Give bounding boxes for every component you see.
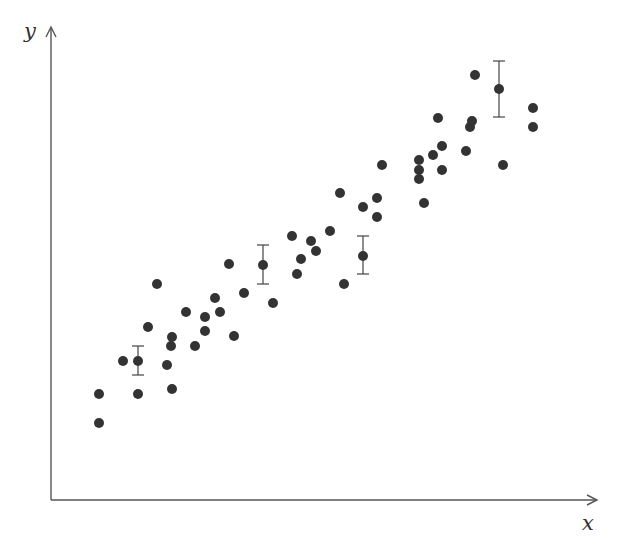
data-point [239,288,249,298]
data-point [118,356,128,366]
data-point [433,113,443,123]
data-point [470,70,480,80]
data-point [428,150,438,160]
data-point [229,331,239,341]
data-point [215,307,225,317]
data-point [133,356,143,366]
data-point [414,155,424,165]
data-point [461,146,471,156]
data-point [258,260,268,270]
data-point [287,231,297,241]
scatter-plot: y x [0,0,620,553]
data-point [133,389,143,399]
data-point [494,84,504,94]
data-point [358,202,368,212]
data-point [306,236,316,246]
data-point [200,326,210,336]
data-point [377,160,387,170]
data-point [296,254,306,264]
data-point [268,298,278,308]
data-point [143,322,153,332]
data-points [94,70,538,428]
data-point [167,384,177,394]
data-point [224,259,234,269]
data-point [292,269,302,279]
data-point [190,341,200,351]
y-axis-label: y [23,19,37,43]
data-point [166,341,176,351]
data-point [210,293,220,303]
data-point [152,279,162,289]
y-axis [46,27,56,500]
data-point [162,360,172,370]
data-point [414,174,424,184]
data-point [419,198,429,208]
data-point [200,312,210,322]
data-point [528,103,538,113]
data-point [94,418,104,428]
data-point [467,116,477,126]
data-point [437,165,447,175]
data-point [94,389,104,399]
data-point [358,251,368,261]
data-point [372,212,382,222]
data-point [311,246,321,256]
data-point [498,160,508,170]
data-point [335,188,345,198]
data-point [167,332,177,342]
x-axis [51,495,597,505]
data-point [437,141,447,151]
data-point [372,193,382,203]
error-bars [132,61,505,375]
x-axis-label: x [582,511,594,535]
data-point [181,307,191,317]
data-point [339,279,349,289]
data-point [528,122,538,132]
data-point [414,165,424,175]
data-point [325,226,335,236]
